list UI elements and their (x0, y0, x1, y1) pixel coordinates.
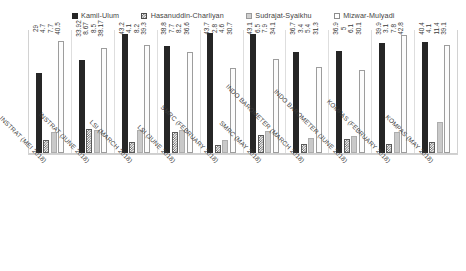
legend-label: Hasanuddin-Charliyan (151, 11, 224, 20)
legend-label: Sudrajat-Syaikhu (255, 11, 311, 20)
bar-1[interactable]: 36.7 (293, 30, 299, 153)
bar-rect: 39.9 (379, 43, 385, 153)
bar-3[interactable]: 8.2 (137, 30, 143, 153)
bar-value-label: 4.1 (426, 23, 432, 32)
bar-value-label: 36.7 (290, 22, 296, 35)
bar-rect: 8.67 (86, 129, 92, 153)
x-axis-cell: INSTRAT (JUNE 2018) (71, 157, 114, 262)
bar-value-label: 36.9 (333, 22, 339, 35)
x-axis-cell: LSI (MARCH 2018) (114, 157, 157, 262)
x-axis-cell: KOMPAS (MAY 2018) (415, 157, 458, 262)
x-axis-labels: INSTRAT (MEI 2018)INSTRAT (JUNE 2018)LSI… (28, 157, 458, 262)
bar-value-label: 8.67 (83, 22, 89, 35)
bar-value-label: 7.9 (262, 23, 268, 32)
bar-rect: 36.9 (336, 51, 342, 153)
bar-value-label: 43.1 (247, 22, 253, 35)
bar-1[interactable]: 29 (36, 30, 42, 153)
bar-value-label: 30.7 (226, 22, 232, 35)
chart-legend: Kamil-Ulum Hasanuddin-Charliyan Sudrajat… (0, 11, 466, 20)
bar-value-label: 42.8 (398, 22, 404, 35)
bar-3[interactable]: 6.1 (351, 30, 357, 153)
bar-3[interactable]: 5.4 (308, 30, 314, 153)
legend-swatch-icon (334, 13, 340, 19)
bar-value-label: 43.7 (204, 22, 210, 35)
bar-value-label: 31.3 (312, 22, 318, 35)
legend-item-sudrajat-syaikhu[interactable]: Sudrajat-Syaikhu (246, 11, 312, 20)
legend-label: Mizwar-Mulyadi (343, 11, 394, 20)
legend-swatch-icon (246, 13, 252, 19)
bar-value-label: 38.17 (98, 20, 104, 37)
x-axis-cell: LSI (JUNE 2018) (157, 157, 200, 262)
x-axis-cell: INDO BAROMETER (JUNE 2018) (329, 157, 372, 262)
bar-rect: 7.9 (265, 131, 271, 153)
bar-2[interactable]: 4.7 (43, 30, 49, 153)
bar-4[interactable]: 39.1 (444, 30, 450, 153)
bar-rect: 33.92 (79, 60, 85, 153)
bar-2[interactable]: 4.1 (129, 30, 135, 153)
bar-1[interactable]: 33.92 (79, 30, 85, 153)
bar-2[interactable]: 3.1 (386, 30, 392, 153)
legend-swatch-icon (72, 13, 78, 19)
plot-area: 294.77.740.533.928.678.538.1743.24.18.23… (28, 30, 458, 155)
bar-rect: 43.1 (250, 34, 256, 153)
legend-swatch-icon (141, 13, 147, 19)
bar-3[interactable]: 7.8 (394, 30, 400, 153)
bar-1[interactable]: 43.7 (207, 30, 213, 153)
bar-2[interactable]: 6.5 (258, 30, 264, 153)
x-axis-cell: SMRC (MAY 2018) (243, 157, 286, 262)
x-axis-cell: KOMPAS (FEBRUARY 2018) (372, 157, 415, 262)
legend-item-hasanuddin-charliyan[interactable]: Hasanuddin-Charliyan (141, 11, 224, 20)
bar-value-label: 5 (340, 26, 346, 30)
bar-3[interactable]: 7.9 (265, 30, 271, 153)
bar-2[interactable]: 3.4 (301, 30, 307, 153)
bar-1[interactable]: 43.2 (122, 30, 128, 153)
bar-2[interactable]: 4.1 (429, 30, 435, 153)
bar-3[interactable]: 11.4 (437, 30, 443, 153)
bar-value-label: 34.1 (269, 22, 275, 35)
bar-rect: 39.1 (444, 45, 450, 153)
bar-rect: 7.7 (51, 132, 57, 153)
bar-chart: Kamil-Ulum Hasanuddin-Charliyan Sudrajat… (0, 0, 466, 271)
bar-value-label: 4.1 (126, 23, 132, 32)
bar-value-label: 39.3 (141, 22, 147, 35)
bar-rect: 5.4 (308, 138, 314, 153)
bar-value-label: 6.1 (348, 23, 354, 32)
x-axis-cell: INSTRAT (MEI 2018) (28, 157, 71, 262)
bar-3[interactable]: 8.2 (179, 30, 185, 153)
bar-rect: 43.7 (207, 33, 213, 153)
bar-2[interactable]: 7.7 (172, 30, 178, 153)
bar-value-label: 8.2 (176, 23, 182, 32)
bar-group: 40.44.111.439.1 (415, 30, 457, 154)
bar-1[interactable]: 39.9 (379, 30, 385, 153)
x-axis-cell: INDO BAROMETER (MARCH 2018) (286, 157, 329, 262)
bar-rect: 38.8 (164, 46, 170, 153)
bar-rect: 43.2 (122, 34, 128, 153)
legend-item-mizwar-mulyadi[interactable]: Mizwar-Mulyadi (334, 11, 395, 20)
legend-item-kamil-ulum[interactable]: Kamil-Ulum (72, 11, 120, 20)
bar-value-label: 5.4 (305, 23, 311, 32)
bar-2[interactable]: 2.8 (215, 30, 221, 153)
bar-value-label: 39.1 (441, 22, 447, 35)
bar-rect: 4.6 (222, 140, 228, 153)
bar-rect: 4.1 (129, 142, 135, 153)
x-axis-cell: SMRC (FEBRUARY 2018) (200, 157, 243, 262)
bar-rect: 3.1 (386, 144, 392, 153)
bar-value-label: 30.1 (355, 22, 361, 35)
bar-1[interactable]: 40.4 (422, 30, 428, 153)
bar-rect: 36.7 (293, 52, 299, 153)
bar-value-label: 38.8 (161, 22, 167, 35)
bar-2[interactable]: 8.67 (86, 30, 92, 153)
bar-2[interactable]: 5 (344, 30, 350, 153)
bar-3[interactable]: 4.6 (222, 30, 228, 153)
bar-value-label: 3.1 (383, 23, 389, 32)
bar-1[interactable]: 43.1 (250, 30, 256, 153)
bar-value-label: 4.6 (219, 23, 225, 32)
bar-rect: 6.1 (351, 136, 357, 153)
bar-1[interactable]: 36.9 (336, 30, 342, 153)
bar-1[interactable]: 38.8 (164, 30, 170, 153)
bar-rect: 3.4 (301, 144, 307, 153)
legend-label: Kamil-Ulum (81, 11, 119, 20)
bar-rect: 40.4 (422, 42, 428, 153)
bar-rect: 5 (344, 139, 350, 153)
bar-rect: 7.8 (394, 132, 400, 153)
